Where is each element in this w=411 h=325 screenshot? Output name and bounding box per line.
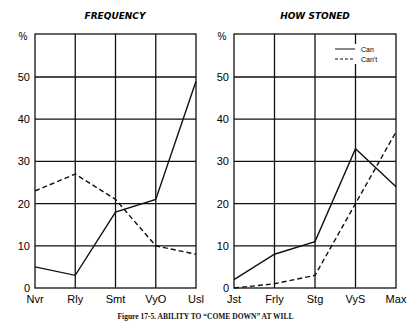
legend-label: Can't — [361, 56, 377, 63]
x-tick-label: Rly — [67, 293, 83, 305]
x-tick-label: VyO — [145, 293, 166, 305]
charts-figure: FREQUENCY%01020304050NvrRlySmtVyOUslHOW … — [0, 0, 411, 325]
x-tick-label: Smt — [106, 293, 126, 305]
figure-caption: Figure 17-5. ABILITY TO “COME DOWN” AT W… — [0, 312, 411, 321]
x-tick-label: Nvr — [26, 293, 43, 305]
y-tick-label: 50 — [217, 71, 229, 83]
y-tick-label: 40 — [217, 113, 229, 125]
x-tick-label: Frly — [265, 293, 284, 305]
legend-label: Can — [361, 46, 374, 53]
y-tick-label: 20 — [217, 198, 229, 210]
y-tick-label: 50 — [18, 71, 30, 83]
x-tick-label: VyS — [346, 293, 366, 305]
legend: CanCan't — [333, 44, 391, 64]
x-tick-label: Usl — [188, 293, 204, 305]
chart-title: HOW STONED — [280, 11, 350, 21]
y-unit-label: % — [19, 31, 28, 42]
y-tick-label: 10 — [217, 240, 229, 252]
y-tick-label: 40 — [18, 113, 30, 125]
chart-frequency: FREQUENCY%01020304050NvrRlySmtVyOUsl — [18, 11, 204, 305]
y-tick-label: 20 — [18, 198, 30, 210]
y-tick-label: 10 — [18, 240, 30, 252]
x-tick-label: Jst — [227, 293, 241, 305]
x-tick-label: Max — [386, 293, 407, 305]
chart-how-stoned: HOW STONED%01020304050JstFrlyStgVySMaxCa… — [217, 11, 407, 305]
y-tick-label: 30 — [18, 155, 30, 167]
chart-title: FREQUENCY — [85, 11, 147, 21]
y-tick-label: 30 — [217, 155, 229, 167]
y-unit-label: % — [218, 31, 227, 42]
x-tick-label: Stg — [307, 293, 324, 305]
